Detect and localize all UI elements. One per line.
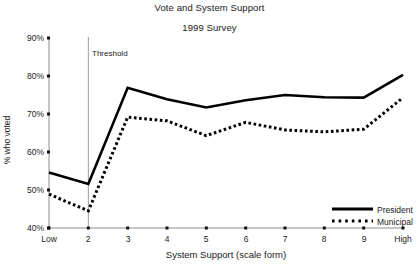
y-axis-tick (47, 37, 50, 40)
legend-label-president: President (377, 205, 413, 215)
x-tick-label-9: 9 (362, 234, 367, 244)
y-axis-title: % who voted (2, 100, 12, 180)
x-tick-label-5: 5 (204, 234, 209, 244)
y-axis-tick (47, 75, 50, 78)
threshold-annotation-label: Threshold (92, 49, 128, 58)
x-tick-label-low: Low (41, 234, 57, 244)
chart-container: Vote and System Support 1999 Survey 90% … (0, 0, 419, 269)
legend-label-municipal: Municipal (377, 217, 413, 227)
y-axis-tick (47, 189, 50, 192)
x-tick-label-6: 6 (244, 234, 249, 244)
x-axis-tick (323, 227, 326, 230)
x-tick-label-8: 8 (322, 234, 327, 244)
x-tick-label-3: 3 (126, 234, 131, 244)
y-tick-label-60: 60% (16, 147, 44, 157)
y-tick-label-90: 90% (16, 33, 44, 43)
y-tick-label-50: 50% (16, 185, 44, 195)
y-tick-label-80: 80% (16, 71, 44, 81)
x-axis-tick (205, 227, 208, 230)
x-axis-tick (244, 227, 247, 230)
x-axis-tick (362, 227, 365, 230)
y-tick-label-70: 70% (16, 109, 44, 119)
y-axis-tick (47, 151, 50, 154)
x-axis-tick (166, 227, 169, 230)
x-axis-tick (87, 227, 90, 230)
x-axis-title: System Support (scale form) (49, 249, 403, 260)
x-tick-label-high: High (394, 234, 411, 244)
x-axis-tick (48, 227, 51, 230)
plot-area (0, 0, 419, 269)
x-axis-tick (284, 227, 287, 230)
series-line-municipal (49, 98, 403, 211)
y-axis-tick (47, 113, 50, 116)
x-tick-label-4: 4 (165, 234, 170, 244)
y-tick-label-40: 40% (16, 223, 44, 233)
x-tick-label-2: 2 (86, 234, 91, 244)
x-tick-label-7: 7 (283, 234, 288, 244)
x-axis-tick (126, 227, 129, 230)
